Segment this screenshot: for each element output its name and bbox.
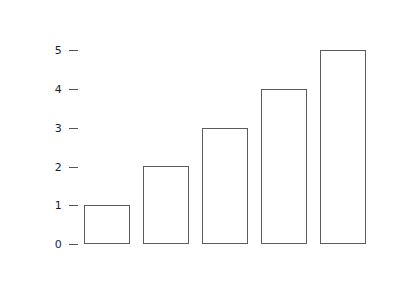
bar[interactable] [84,205,130,244]
bars-group [0,0,410,289]
plot-area: 0 1 2 3 4 5 [0,0,410,289]
bar-chart-figure: 0 1 2 3 4 5 [0,0,410,289]
bar[interactable] [320,50,366,244]
bar[interactable] [261,89,307,244]
bar[interactable] [202,128,248,244]
bar[interactable] [143,166,189,244]
